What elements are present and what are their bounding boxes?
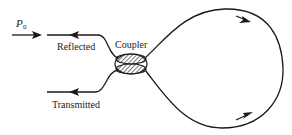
svg-text:0: 0	[23, 23, 27, 31]
transmitted-port-fiber	[47, 70, 118, 96]
input-power-label: P 0	[15, 17, 27, 31]
transmitted-label: Transmitted	[52, 99, 100, 110]
svg-text:P: P	[15, 17, 23, 29]
input-arrow	[12, 31, 42, 39]
coupler-label: Coupler	[115, 39, 148, 50]
fiber-loop-mirror-diagram: P 0 Reflected Transmitted Coupler	[0, 0, 292, 135]
reflected-label: Reflected	[57, 41, 95, 52]
fiber-loop	[145, 9, 283, 128]
coupler-icon	[115, 54, 147, 74]
